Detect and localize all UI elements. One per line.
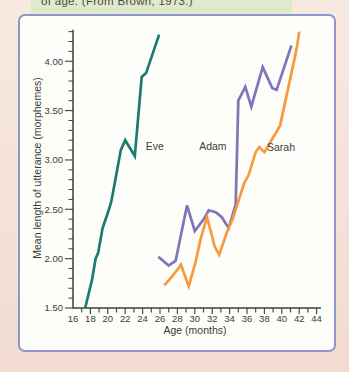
x-axis-tick-label: 42 [294, 313, 305, 324]
y-axis-tick-label: 3.00 [45, 154, 64, 165]
series-line-sarah [164, 32, 299, 287]
x-axis-tick-label: 44 [311, 313, 322, 324]
series-label-eve: Eve [146, 140, 164, 152]
x-axis-tick-label: 30 [190, 313, 201, 324]
caption-highlight: of age. (From Brown, 1973.) [31, 0, 292, 14]
y-axis-tick-label: 1.50 [45, 302, 64, 313]
y-axis-tick-label: 2.50 [45, 204, 64, 215]
series-line-eve [85, 35, 159, 308]
y-axis-tick-label: 3.50 [45, 105, 64, 116]
x-axis-title: Age (months) [73, 324, 317, 336]
series-label-adam: Adam [199, 140, 227, 152]
x-axis-tick-label: 40 [277, 313, 288, 324]
x-axis-tick-label: 38 [259, 313, 270, 324]
x-axis-tick-label: 18 [85, 313, 96, 324]
y-axis-tick-label: 4.00 [45, 56, 64, 67]
x-axis-tick-label: 22 [120, 313, 131, 324]
caption-text: of age. (From Brown, 1973.) [31, 0, 292, 10]
x-axis-tick-label: 34 [224, 313, 235, 324]
line-chart: 1.502.002.503.003.504.001618202224262830… [0, 0, 349, 372]
x-axis-tick-label: 26 [155, 313, 166, 324]
x-axis-tick-label: 16 [68, 313, 79, 324]
x-axis-tick-label: 24 [137, 313, 148, 324]
y-axis-title: Mean length of utterance (morphemes) [31, 23, 43, 313]
y-axis-tick-label: 2.00 [45, 253, 64, 264]
x-axis-tick-label: 20 [103, 313, 114, 324]
x-axis-tick-label: 28 [172, 313, 183, 324]
x-axis-tick-label: 32 [207, 313, 218, 324]
x-axis-tick-label: 36 [242, 313, 253, 324]
series-line-adam [158, 46, 291, 266]
series-label-sarah: Sarah [267, 141, 295, 153]
book-page: of age. (From Brown, 1973.) 1.502.002.50… [0, 0, 349, 372]
